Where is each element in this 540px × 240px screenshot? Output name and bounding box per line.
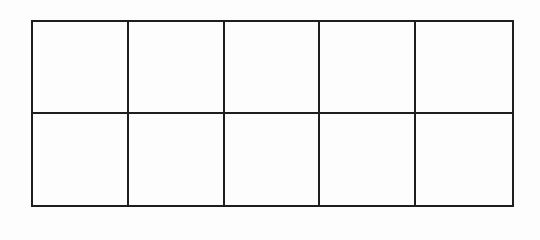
grid-cell-r1-c1 [33,22,129,114]
grid-cell-r2-c3 [225,114,321,206]
grid-cell-r2-c5 [416,114,512,206]
grid-cell-r2-c1 [33,114,129,206]
grid-cell-r2-c2 [129,114,225,206]
grid-cell-r1-c4 [320,22,416,114]
grid-cell-r1-c5 [416,22,512,114]
ten-frame-grid [31,20,514,207]
grid-cell-r1-c2 [129,22,225,114]
grid-cell-r2-c4 [320,114,416,206]
grid-cell-r1-c3 [225,22,321,114]
